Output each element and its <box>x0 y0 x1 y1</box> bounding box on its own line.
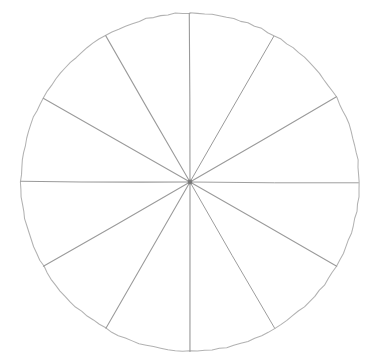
fraction-circle-svg <box>0 0 379 364</box>
center-point-dot <box>188 180 193 185</box>
fraction-circle-figure <box>0 0 379 364</box>
